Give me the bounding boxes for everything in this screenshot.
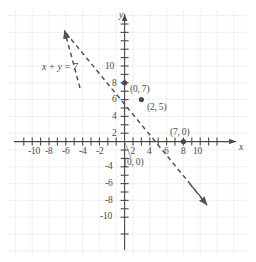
coordinate-graph-figure: y x x + y = 7 -10 -8 -6 -4 -2 2 4 6 8 10… [0,0,256,262]
x-tick-label--10: -10 [28,147,40,157]
y-tick-label-4: 4 [112,112,117,122]
point-label-0-0: (0, 0) [124,158,143,168]
y-tick-label--6: -6 [105,179,113,189]
x-tick-label--6: -6 [62,147,70,157]
y-tick-label--4: -4 [105,162,113,172]
x-tick-label--2: -2 [96,147,104,157]
equation-label: x + y = 7 [42,62,78,72]
x-axis-label: x [239,143,243,153]
equation-line-upper-arrow [65,31,81,89]
y-tick-label-8: 8 [112,79,117,89]
y-tick-label-2: 2 [112,129,117,139]
equation-line [66,33,205,202]
y-axis-label: y [119,11,123,21]
point-marker-2-5 [139,97,144,102]
point-label-2-5: (2, 5) [147,103,166,113]
x-tick-label--8: -8 [45,147,53,157]
x-tick-label-4: 4 [147,147,152,157]
x-tick-label-10: 10 [193,147,202,157]
y-tick-label--10: -10 [100,212,112,222]
point-label-7-0: (7, 0) [170,128,189,138]
graph-canvas [0,0,256,262]
x-tick-label-8: 8 [181,147,186,157]
point-marker-7-0 [181,139,186,144]
x-tick-label-6: 6 [164,147,169,157]
y-tick-label-10: 10 [105,62,114,72]
point-marker-0-7 [122,80,127,85]
y-tick-label-6: 6 [112,95,117,105]
y-tick-label--8: -8 [105,196,113,206]
point-label-0-7: (0, 7) [130,85,149,95]
background-grid [8,10,248,255]
x-tick-label-2: 2 [131,147,136,157]
x-tick-label--4: -4 [79,147,87,157]
